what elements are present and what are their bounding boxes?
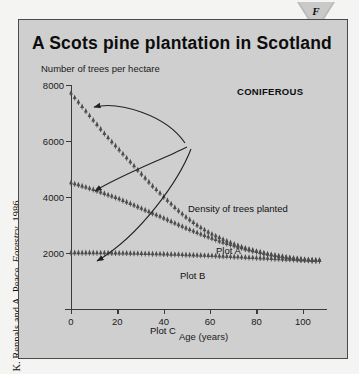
annotation-plot-b: Plot B (180, 270, 205, 281)
tree-glyph-icon (173, 220, 177, 226)
tree-glyph-icon (184, 252, 188, 258)
tree-glyph-icon (84, 108, 88, 114)
tree-glyph-icon (243, 254, 247, 260)
tree-glyph-icon (206, 252, 210, 258)
tree-glyph-icon (162, 251, 166, 257)
tree-glyph-icon (166, 217, 170, 223)
tree-glyph-icon (173, 204, 177, 210)
marker-letter: F (297, 5, 335, 17)
tree-glyph-icon (177, 208, 181, 214)
tree-glyph-icon (88, 250, 92, 256)
tree-glyph-icon (95, 188, 99, 194)
tree-glyph-icon (128, 159, 132, 165)
tree-glyph-icon (110, 139, 114, 145)
tree-glyph-icon (136, 204, 140, 210)
tree-glyph-icon (99, 126, 103, 132)
tree-glyph-icon (132, 202, 136, 208)
annotation-plot-c: Plot C (150, 325, 176, 336)
tree-glyph-icon (114, 194, 118, 200)
tree-glyph-icon (169, 251, 173, 257)
tree-glyph-icon (162, 215, 166, 221)
tree-glyph-icon (84, 250, 88, 256)
tree-glyph-icon (158, 213, 162, 219)
tree-glyph-icon (114, 250, 118, 256)
tree-glyph-icon (91, 117, 95, 123)
tree-glyph-icon (255, 255, 259, 261)
tree-glyph-icon (106, 192, 110, 198)
tree-glyph-icon (262, 255, 266, 261)
tree-glyph-icon (99, 250, 103, 256)
tree-glyph-icon (140, 171, 144, 177)
tree-glyph-icon (121, 151, 125, 157)
y-tick-label: 6000 (43, 136, 64, 147)
tree-glyph-icon (99, 189, 103, 195)
tree-glyph-icon (102, 250, 106, 256)
tree-glyph-icon (169, 218, 173, 224)
x-tick-label: 60 (205, 316, 216, 327)
tree-glyph-icon (158, 251, 162, 257)
tree-glyph-icon (106, 250, 110, 256)
tree-glyph-icon (195, 229, 199, 235)
tree-glyph-icon (247, 254, 251, 260)
series-plot-a (69, 90, 321, 264)
tree-glyph-icon (184, 214, 188, 220)
tree-glyph-icon (177, 251, 181, 257)
tree-glyph-icon (110, 250, 114, 256)
tree-glyph-icon (84, 184, 88, 190)
tree-glyph-icon (166, 251, 170, 257)
tree-glyph-icon (73, 181, 77, 187)
tree-glyph-icon (73, 250, 77, 256)
tree-glyph-icon (95, 250, 99, 256)
tree-glyph-icon (73, 94, 77, 100)
tree-glyph-icon (195, 252, 199, 258)
tree-glyph-icon (136, 167, 140, 173)
tree-glyph-icon (143, 207, 147, 213)
tree-glyph-icon (199, 252, 203, 258)
tree-glyph-icon (158, 190, 162, 196)
figure-panel: A Scots pine plantation in Scotland Numb… (18, 19, 348, 359)
tree-glyph-icon (128, 250, 132, 256)
tree-glyph-icon (199, 231, 203, 237)
tree-glyph-icon (210, 235, 214, 241)
tree-glyph-icon (125, 250, 129, 256)
tree-glyph-icon (147, 208, 151, 214)
tree-glyph-icon (180, 223, 184, 229)
tree-glyph-icon (188, 217, 192, 223)
x-tick-label: 100 (295, 316, 311, 327)
tree-glyph-icon (154, 186, 158, 192)
tree-glyph-icon (102, 130, 106, 136)
tree-glyph-icon (110, 193, 114, 199)
tree-glyph-icon (132, 250, 136, 256)
x-tick-label: 0 (68, 316, 73, 327)
tree-glyph-icon (192, 252, 196, 258)
tree-glyph-icon (177, 222, 181, 228)
tree-glyph-icon (154, 251, 158, 257)
tree-glyph-icon (143, 250, 147, 256)
tree-glyph-icon (88, 185, 92, 191)
tree-glyph-icon (88, 112, 92, 118)
tree-glyph-icon (77, 182, 81, 188)
tree-glyph-icon (69, 180, 73, 186)
tree-glyph-icon (203, 227, 207, 233)
tree-glyph-icon (210, 252, 214, 258)
tree-glyph-icon (125, 155, 129, 161)
tree-glyph-icon (203, 252, 207, 258)
tree-glyph-icon (173, 251, 177, 257)
tree-glyph-icon (169, 201, 173, 207)
tree-glyph-icon (106, 135, 110, 141)
tree-glyph-icon (266, 255, 270, 261)
tree-glyph-icon (206, 234, 210, 240)
tree-glyph-icon (91, 186, 95, 192)
tree-glyph-icon (154, 212, 158, 218)
plot-area: 2000400060008000 020406080100 Density of… (71, 85, 326, 297)
tree-glyph-icon (188, 252, 192, 258)
y-tick-label: 2000 (43, 248, 64, 259)
tree-glyph-icon (166, 197, 170, 203)
tree-glyph-icon (162, 194, 166, 200)
tree-glyph-icon (69, 90, 73, 96)
tree-glyph-icon (95, 121, 99, 127)
tree-glyph-icon (269, 255, 273, 261)
tree-glyph-icon (151, 210, 155, 216)
tree-glyph-icon (143, 175, 147, 181)
tree-glyph-icon (128, 200, 132, 206)
